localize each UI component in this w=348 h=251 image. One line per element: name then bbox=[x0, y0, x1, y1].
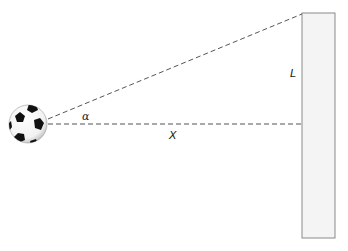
distance-label: X bbox=[168, 129, 177, 142]
soccer-ball-icon bbox=[8, 104, 47, 145]
height-label: L bbox=[290, 67, 296, 80]
angle-label: α bbox=[82, 110, 90, 123]
diagram-canvas: α X L bbox=[0, 0, 348, 251]
wall bbox=[302, 13, 335, 238]
upper-sight-line bbox=[48, 14, 302, 119]
